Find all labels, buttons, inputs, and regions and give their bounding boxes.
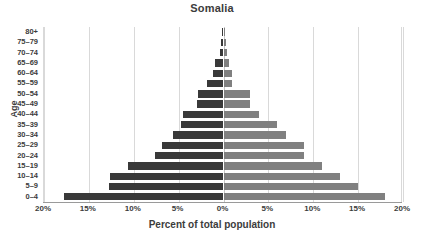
pyramid-row xyxy=(44,181,401,191)
y-tick-label-age-30_34: 30–34 xyxy=(0,130,38,140)
pyramid-row xyxy=(44,89,401,99)
pyramid-row xyxy=(44,140,401,150)
y-tick-label-age-10_14: 10–14 xyxy=(0,171,38,181)
bar-female-5_9 xyxy=(224,183,359,190)
pyramid-row xyxy=(44,27,401,37)
bar-female-60_64 xyxy=(224,70,233,77)
y-tick-label-age-60_64: 60–64 xyxy=(0,68,38,78)
pyramid-row xyxy=(44,68,401,78)
x-axis-tick-labels: 20%15%10%5%0%5%10%15%20% xyxy=(43,204,402,218)
y-tick-label-age-55_59: 55–59 xyxy=(0,78,38,88)
y-tick-label-age-35_39: 35–39 xyxy=(0,120,38,130)
y-tick-label-age-20_24: 20–24 xyxy=(0,151,38,161)
bar-female-35_39 xyxy=(224,121,278,128)
bar-male-60_64 xyxy=(213,70,224,77)
pyramid-row xyxy=(44,37,401,47)
y-tick-label-age-80_: 80+ xyxy=(0,27,38,37)
bar-female-50_54 xyxy=(224,90,251,97)
bar-male-10_14 xyxy=(110,173,223,180)
bar-male-40_44 xyxy=(183,111,223,118)
bar-female-70_74 xyxy=(224,49,228,56)
pyramid-row xyxy=(44,171,401,181)
bar-female-75_79 xyxy=(224,39,227,46)
x-tick-label-1: 15% xyxy=(68,204,108,213)
x-tick-label-7: 15% xyxy=(337,204,377,213)
y-tick-label-age-75_79: 75–79 xyxy=(0,37,38,47)
bar-female-80_ xyxy=(224,28,226,35)
y-tick-label-age-40_44: 40–44 xyxy=(0,109,38,119)
bar-female-20_24 xyxy=(224,152,305,159)
x-tick-label-5: 5% xyxy=(247,204,287,213)
x-axis-title: Percent of total population xyxy=(0,219,424,230)
bar-male-0_4 xyxy=(64,193,224,200)
y-tick-label-age-45_49: 45–49 xyxy=(0,99,38,109)
x-tick-label-6: 10% xyxy=(292,204,332,213)
y-tick-label-age-70_74: 70–74 xyxy=(0,48,38,58)
bar-male-15_19 xyxy=(128,162,223,169)
x-tick-label-2: 10% xyxy=(113,204,153,213)
bar-male-20_24 xyxy=(155,152,223,159)
pyramid-row xyxy=(44,58,401,68)
bar-female-55_59 xyxy=(224,80,233,87)
bar-male-30_34 xyxy=(173,131,223,138)
pyramid-row xyxy=(44,130,401,140)
x-tick-label-8: 20% xyxy=(382,204,422,213)
y-tick-label-age-50_54: 50–54 xyxy=(0,89,38,99)
bar-female-15_19 xyxy=(224,162,323,169)
y-axis-tick-labels: 80+75–7970–7465–6960–6455–5950–5445–4940… xyxy=(0,27,40,202)
bar-male-25_29 xyxy=(162,142,223,149)
plot-area xyxy=(43,27,402,202)
bar-female-10_14 xyxy=(224,173,341,180)
x-tick-label-3: 5% xyxy=(158,204,198,213)
pyramid-row xyxy=(44,78,401,88)
y-tick-label-age-0_4: 0–4 xyxy=(0,192,38,202)
x-axis-baseline xyxy=(43,202,402,203)
bar-male-35_39 xyxy=(181,121,223,128)
x-tick-label-0: 20% xyxy=(23,204,63,213)
pyramid-row xyxy=(44,192,401,202)
bar-male-45_49 xyxy=(197,100,224,107)
y-tick-label-age-25_29: 25–29 xyxy=(0,140,38,150)
bar-male-5_9 xyxy=(109,183,224,190)
gridline-20pct-right xyxy=(403,27,404,202)
chart-title: Somalia xyxy=(0,2,424,14)
bar-female-25_29 xyxy=(224,142,305,149)
y-tick-label-age-15_19: 15–19 xyxy=(0,161,38,171)
bar-female-40_44 xyxy=(224,111,260,118)
pyramid-row xyxy=(44,48,401,58)
bar-female-0_4 xyxy=(224,193,386,200)
pyramid-row xyxy=(44,99,401,109)
x-tick-label-4: 0% xyxy=(203,204,243,213)
pyramid-bar-rows xyxy=(44,27,401,202)
bar-female-30_34 xyxy=(224,131,287,138)
pyramid-row xyxy=(44,109,401,119)
pyramid-row xyxy=(44,161,401,171)
bar-male-50_54 xyxy=(198,90,223,97)
bar-male-55_59 xyxy=(207,80,223,87)
population-pyramid-chart: Somalia Age 80+75–7970–7465–6960–6455–59… xyxy=(0,0,424,238)
pyramid-row xyxy=(44,151,401,161)
y-tick-label-age-65_69: 65–69 xyxy=(0,58,38,68)
bar-male-65_69 xyxy=(215,59,224,66)
y-tick-label-age-5_9: 5–9 xyxy=(0,181,38,191)
pyramid-row xyxy=(44,120,401,130)
bar-female-45_49 xyxy=(224,100,251,107)
bar-female-65_69 xyxy=(224,59,229,66)
